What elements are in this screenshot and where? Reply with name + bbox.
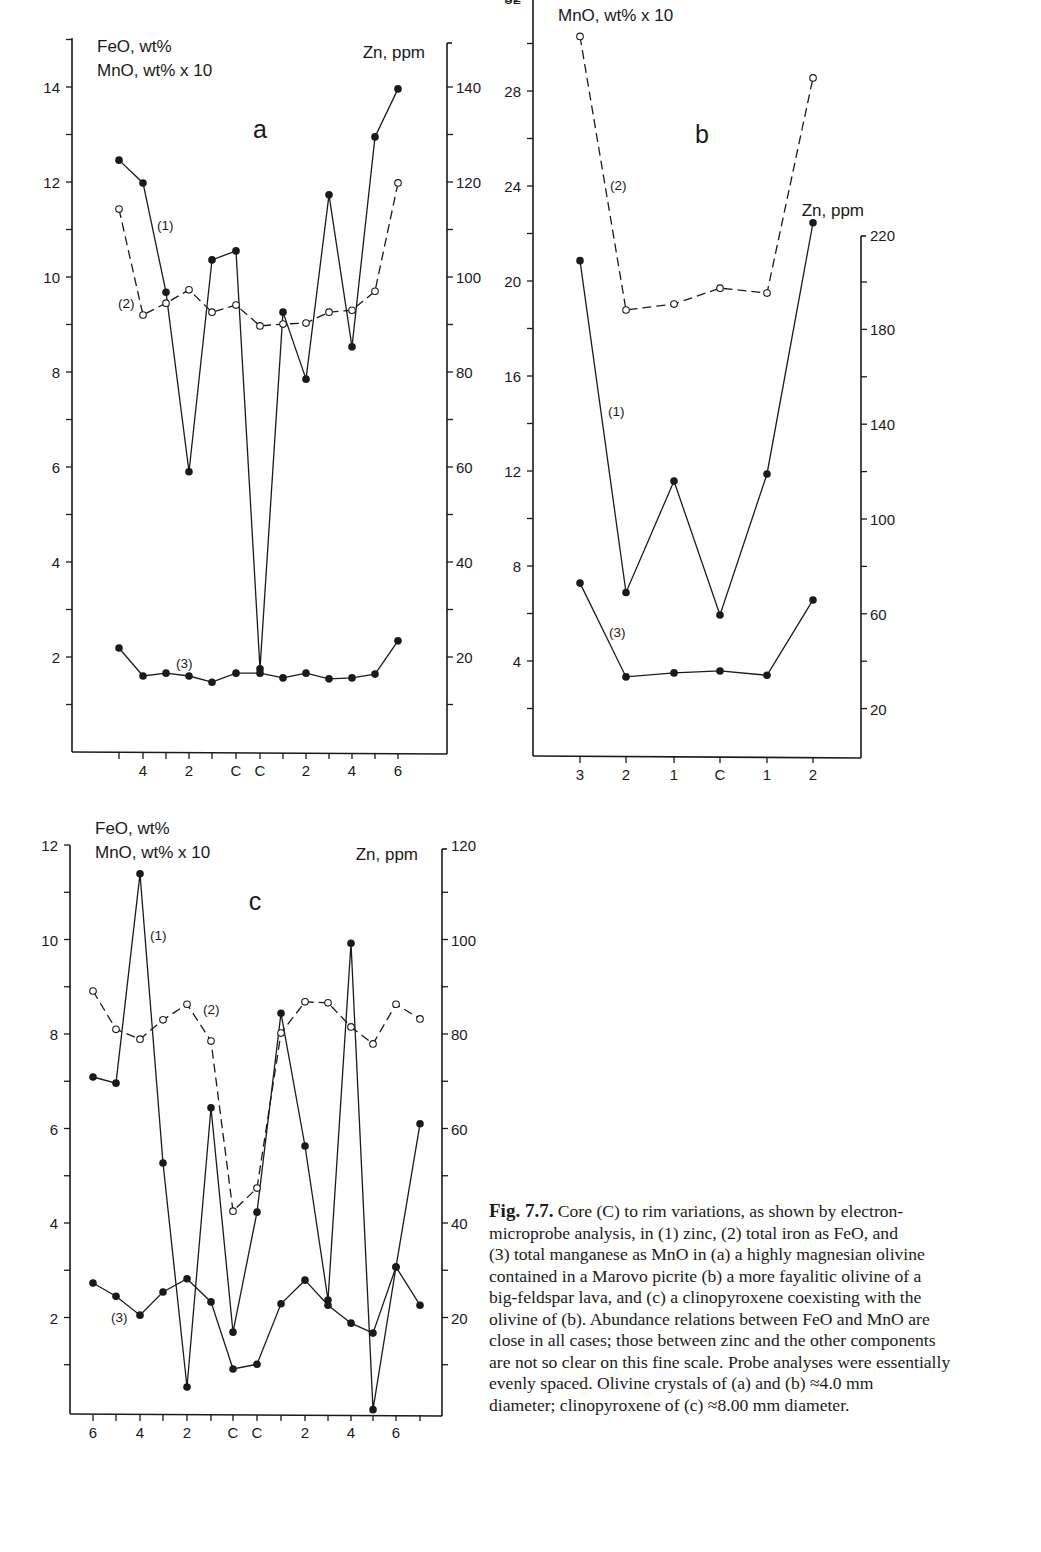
x-tick-label: C xyxy=(228,1424,239,1441)
right-tick-label: 180 xyxy=(870,321,895,338)
filled-marker xyxy=(159,1159,167,1167)
caption-line: close in all cases; those between zinc a… xyxy=(489,1330,1041,1352)
open-marker xyxy=(140,312,147,319)
right-tick-label: 80 xyxy=(451,1026,468,1043)
caption-line: diameter; clinopyroxene of (c) ≈8.00 mm … xyxy=(489,1395,1041,1417)
filled-marker xyxy=(136,870,144,878)
figure-caption: Fig. 7.7. Core (C) to rim variations, as… xyxy=(489,1200,1041,1416)
open-marker xyxy=(186,287,193,294)
left-tick-label: 8 xyxy=(52,364,60,381)
filled-marker xyxy=(716,667,724,675)
filled-marker xyxy=(112,1079,120,1087)
right-tick-label: 20 xyxy=(451,1310,468,1327)
filled-marker xyxy=(277,1300,285,1308)
filled-marker xyxy=(325,675,333,683)
right-tick-label: 20 xyxy=(870,701,887,718)
filled-marker xyxy=(622,673,630,681)
filled-marker xyxy=(89,1279,97,1287)
filled-marker xyxy=(208,256,216,264)
open-marker xyxy=(208,1038,215,1045)
filled-marker xyxy=(207,1104,215,1112)
x-tick-label: 2 xyxy=(302,762,310,779)
filled-marker xyxy=(670,477,678,485)
filled-marker xyxy=(136,1311,144,1319)
series-annotation: (3) xyxy=(111,1310,128,1325)
filled-marker xyxy=(279,674,287,682)
left-axis-label: MnO, wt% x 10 xyxy=(558,6,673,25)
right-axis-label: Zn, ppm xyxy=(356,845,418,864)
x-tick-label: 1 xyxy=(763,766,771,783)
series-annotation: (1) xyxy=(608,404,625,419)
open-marker xyxy=(810,75,817,82)
filled-marker xyxy=(347,1319,355,1327)
filled-marker xyxy=(763,470,771,478)
left-tick-label: 16 xyxy=(504,368,521,385)
open-marker xyxy=(372,288,379,295)
left-tick-label: 2 xyxy=(52,649,60,666)
left-tick-label: 28 xyxy=(504,83,521,100)
right-tick-label: 40 xyxy=(456,554,473,571)
panel-letter: c xyxy=(249,887,262,915)
open-marker xyxy=(326,309,333,316)
filled-marker xyxy=(159,1288,167,1296)
filled-marker xyxy=(394,637,402,645)
left-axis-label: MnO, wt% x 10 xyxy=(97,61,212,80)
filled-marker xyxy=(416,1120,424,1128)
series-annotation: (2) xyxy=(118,296,135,311)
filled-marker xyxy=(325,191,333,199)
right-tick-label: 100 xyxy=(870,511,895,528)
left-tick-label: 10 xyxy=(41,932,58,949)
series-line xyxy=(93,991,420,1211)
left-tick-label: 10 xyxy=(43,269,60,286)
series-line xyxy=(580,36,813,310)
open-marker xyxy=(233,302,240,309)
series-annotation: (1) xyxy=(150,928,167,943)
left-tick-label: 8 xyxy=(513,558,521,575)
series-annotation: (2) xyxy=(203,1002,220,1017)
panel-letter: b xyxy=(695,120,709,148)
x-tick-label: 4 xyxy=(347,1424,355,1441)
filled-marker xyxy=(253,1360,261,1368)
open-marker xyxy=(577,33,584,40)
caption-line: evenly spaced. Olivine crystals of (a) a… xyxy=(489,1373,1041,1395)
filled-marker xyxy=(232,669,240,677)
left-tick-label: 4 xyxy=(513,653,521,670)
right-tick-label: 120 xyxy=(451,837,476,854)
left-tick-label: 32 xyxy=(504,0,521,7)
open-marker xyxy=(116,206,123,213)
left-tick-label: 12 xyxy=(43,174,60,191)
filled-marker xyxy=(253,1208,261,1216)
filled-marker xyxy=(576,579,584,587)
open-marker xyxy=(348,1024,355,1031)
filled-marker xyxy=(809,219,817,227)
filled-marker xyxy=(185,672,193,680)
panel-letter: a xyxy=(253,115,267,143)
filled-marker xyxy=(416,1301,424,1309)
open-marker xyxy=(280,321,287,328)
filled-marker xyxy=(207,1298,215,1306)
filled-marker xyxy=(115,156,123,164)
filled-marker xyxy=(371,670,379,678)
left-axis-label: FeO, wt% xyxy=(95,819,170,838)
open-marker xyxy=(303,320,310,327)
open-marker xyxy=(160,1017,167,1024)
filled-marker xyxy=(139,179,147,187)
open-marker xyxy=(671,301,678,308)
caption-line: (3) total manganese as MnO in (a) a high… xyxy=(489,1244,1041,1266)
open-marker xyxy=(254,1185,261,1192)
filled-marker xyxy=(89,1073,97,1081)
right-tick-label: 100 xyxy=(456,269,481,286)
x-tick-label: C xyxy=(255,762,266,779)
open-marker xyxy=(393,1001,400,1008)
filled-marker xyxy=(162,288,170,296)
left-tick-label: 2 xyxy=(50,1310,58,1327)
right-axis-label: Zn, ppm xyxy=(802,201,864,220)
x-tick-label: 2 xyxy=(185,762,193,779)
open-marker xyxy=(349,307,356,314)
open-marker xyxy=(184,1001,191,1008)
filled-marker xyxy=(369,1329,377,1337)
filled-marker xyxy=(301,1276,309,1284)
open-marker xyxy=(230,1208,237,1215)
left-tick-label: 6 xyxy=(50,1121,58,1138)
right-tick-label: 140 xyxy=(456,79,481,96)
